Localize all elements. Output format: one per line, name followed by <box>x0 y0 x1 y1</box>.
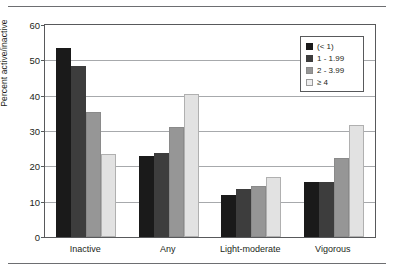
legend-swatch-icon <box>306 79 313 86</box>
legend-label: ≥ 4 <box>317 78 328 87</box>
legend-item[interactable]: ≥ 4 <box>306 77 359 88</box>
y-tick-mark <box>41 25 45 26</box>
y-tick-label: 40 <box>29 90 40 101</box>
x-axis-label: Vigorous <box>315 244 350 254</box>
y-tick-mark <box>41 202 45 203</box>
y-tick-label: 20 <box>29 161 40 172</box>
legend-item[interactable]: 2 - 3.99 <box>306 65 359 76</box>
y-axis-title: Percent active/inactive <box>0 0 9 143</box>
bar <box>319 182 334 237</box>
bar <box>266 177 281 237</box>
x-axis-label: Inactive <box>70 244 101 254</box>
legend-label: 1 - 1.99 <box>317 54 344 63</box>
legend-item[interactable]: 1 - 1.99 <box>306 53 359 64</box>
y-tick-mark <box>41 60 45 61</box>
bar <box>139 156 154 237</box>
bar-group <box>221 25 281 237</box>
bar <box>221 195 236 237</box>
x-axis-label: Any <box>160 244 176 254</box>
bar <box>101 154 116 237</box>
y-tick-label: 60 <box>29 20 40 31</box>
bar <box>86 112 101 237</box>
y-tick-label: 0 <box>35 232 40 243</box>
y-tick-mark <box>41 96 45 97</box>
y-tick-mark <box>41 166 45 167</box>
bar-group <box>139 25 199 237</box>
bottom-rule <box>8 263 386 264</box>
bar <box>251 186 266 237</box>
bar <box>236 189 251 237</box>
y-tick-label: 30 <box>29 126 40 137</box>
legend-swatch-icon <box>306 67 313 74</box>
bar <box>304 182 319 237</box>
legend-item[interactable]: (< 1) <box>306 41 359 52</box>
y-tick-label: 50 <box>29 55 40 66</box>
bar <box>169 127 184 237</box>
bar <box>334 158 349 238</box>
bar <box>154 153 169 237</box>
legend-swatch-icon <box>306 43 313 50</box>
legend: (< 1)1 - 1.992 - 3.99≥ 4 <box>300 36 364 92</box>
top-rule <box>8 6 386 7</box>
y-tick-label: 10 <box>29 196 40 207</box>
legend-label: (< 1) <box>317 42 334 51</box>
bar <box>349 125 364 237</box>
legend-label: 2 - 3.99 <box>317 66 344 75</box>
figure-container: Percent active/inactive 0102030405060 In… <box>0 0 394 275</box>
bar <box>184 94 199 237</box>
bar-group <box>56 25 116 237</box>
x-axis-label: Light-moderate <box>220 244 281 254</box>
y-tick-mark <box>41 131 45 132</box>
bar <box>71 66 86 237</box>
y-tick-mark <box>41 237 45 238</box>
bar <box>56 48 71 237</box>
legend-swatch-icon <box>306 55 313 62</box>
